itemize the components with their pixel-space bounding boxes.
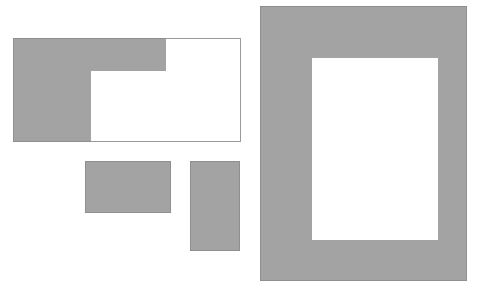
small-rect-wide [85, 161, 171, 213]
frame-rect-hole [312, 58, 438, 240]
l-shape-fill-top [13, 38, 166, 71]
diagram-canvas [0, 0, 479, 296]
l-shape-fill-left [13, 71, 91, 142]
small-rect-tall [190, 161, 240, 251]
